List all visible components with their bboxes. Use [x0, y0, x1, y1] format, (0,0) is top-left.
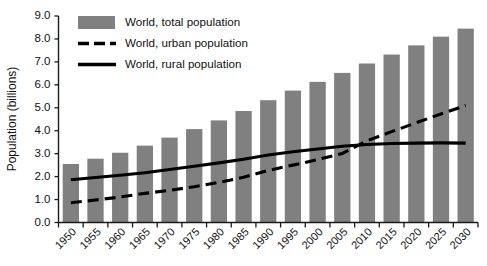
bar-1950: [63, 164, 79, 223]
chart-canvas: Population (billions) 9.08.07.06.05.04.0…: [0, 0, 487, 266]
bar-1980: [211, 120, 227, 222]
bar-2030: [458, 29, 474, 223]
y-axis-title: Population (billions): [5, 67, 19, 172]
y-tick-label-5.0: 5.0: [35, 101, 51, 113]
y-tick-label-3.0: 3.0: [35, 147, 51, 159]
bar-2020: [408, 45, 424, 222]
y-tick-label-7.0: 7.0: [35, 55, 51, 67]
bar-1955: [87, 159, 103, 223]
y-tick-label-8.0: 8.0: [35, 32, 51, 44]
bar-1990: [260, 100, 276, 222]
legend-swatch-total: [78, 16, 115, 29]
bar-2015: [383, 55, 399, 223]
legend-label-total: World, total population: [125, 15, 240, 28]
y-tick-label-6.0: 6.0: [35, 78, 51, 90]
bar-1975: [186, 129, 202, 222]
bar-1960: [112, 153, 128, 223]
bar-1995: [285, 91, 301, 223]
bar-1965: [137, 146, 153, 223]
bar-1985: [235, 111, 251, 223]
bar-2000: [309, 82, 325, 223]
y-tick-label-2.0: 2.0: [35, 170, 51, 182]
y-tick-label-4.0: 4.0: [35, 124, 51, 136]
y-tick-label-9.0: 9.0: [35, 9, 51, 21]
population-chart-figure: Population (billions) 9.08.07.06.05.04.0…: [0, 0, 487, 266]
y-tick-label-1.0: 1.0: [35, 193, 51, 205]
legend-label-rural: World, rural population: [125, 57, 241, 70]
y-tick-label-0.0: 0.0: [35, 216, 51, 228]
legend-label-urban: World, urban population: [125, 36, 248, 49]
bar-2025: [433, 37, 449, 223]
bar-1970: [161, 138, 177, 223]
